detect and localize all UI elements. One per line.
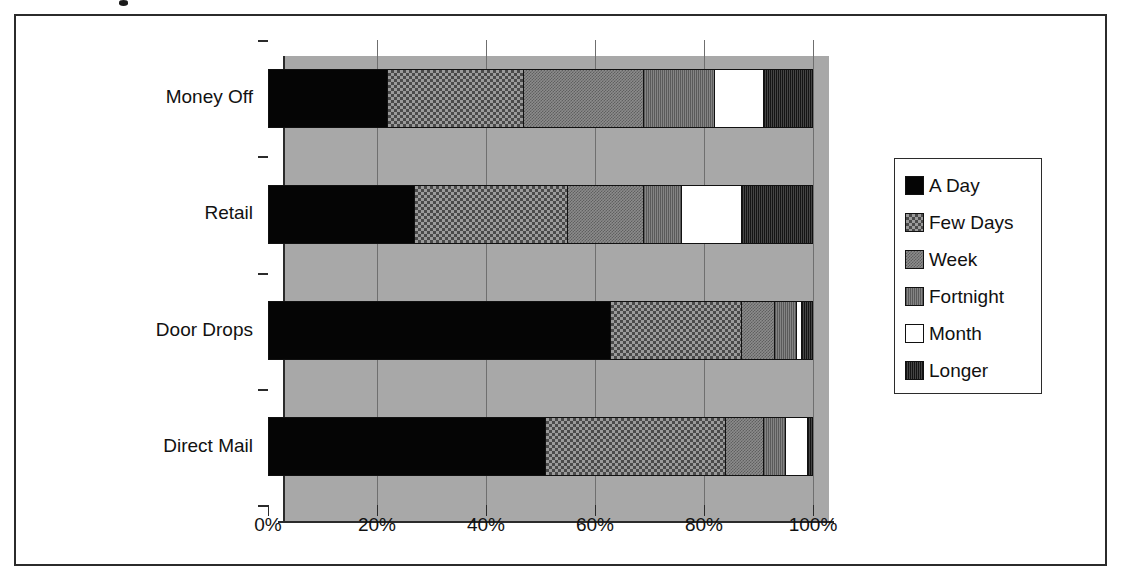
bar-segment: [775, 301, 797, 360]
legend-label: Month: [929, 323, 982, 345]
y-axis-tick: [258, 389, 268, 391]
legend-label: Longer: [929, 360, 988, 382]
legend-swatch-icon: [905, 213, 924, 232]
bar-segment: [764, 417, 786, 476]
category-label: Money Off: [23, 86, 253, 108]
category-label: Direct Mail: [23, 435, 253, 457]
x-tick-label: 20%: [358, 514, 396, 536]
bar-segment: [644, 69, 715, 128]
bar-segment: [742, 301, 775, 360]
y-axis-tick: [258, 156, 268, 158]
legend-label: Few Days: [929, 212, 1013, 234]
bar-segment: [546, 417, 726, 476]
x-tick-label: 80%: [685, 514, 723, 536]
legend-item: A Day: [905, 167, 1041, 204]
y-axis-tick: [258, 273, 268, 275]
stacked-bar: [268, 417, 813, 476]
legend-item: Month: [905, 315, 1041, 352]
bar-segment: [268, 69, 388, 128]
bar-segment: [644, 185, 682, 244]
legend-item: Week: [905, 241, 1041, 278]
bar-segment: [388, 69, 524, 128]
x-tick-label: 60%: [576, 514, 614, 536]
legend-swatch-icon: [905, 287, 924, 306]
category-label: Door Drops: [23, 319, 253, 341]
legend-item: Few Days: [905, 204, 1041, 241]
category-label: Retail: [23, 202, 253, 224]
bar-segment: [611, 301, 742, 360]
legend-label: Week: [929, 249, 977, 271]
bar-segment: [742, 185, 813, 244]
bar-segment: [682, 185, 742, 244]
legend-item: Fortnight: [905, 278, 1041, 315]
gridline: [813, 40, 814, 505]
chart-legend: A DayFew DaysWeekFortnightMonthLonger: [894, 158, 1042, 394]
legend-swatch-icon: [905, 250, 924, 269]
legend-swatch-icon: [905, 361, 924, 380]
bar-segment: [786, 417, 808, 476]
legend-swatch-icon: [905, 176, 924, 195]
y-axis-tick: [258, 40, 268, 42]
bar-segment: [524, 69, 644, 128]
bar-segment: [268, 185, 415, 244]
bar-segment: [802, 301, 813, 360]
bar-segment: [808, 417, 813, 476]
bar-segment: [268, 417, 546, 476]
x-tick-label: 40%: [467, 514, 505, 536]
stacked-bar: [268, 185, 813, 244]
stacked-bar: [268, 69, 813, 128]
legend-label: A Day: [929, 175, 980, 197]
bar-segment: [268, 301, 611, 360]
chart-figure-frame: Money OffRetailDoor DropsDirect Mail 0%2…: [14, 14, 1107, 566]
y-axis-tick: [258, 505, 268, 507]
bar-segment: [568, 185, 644, 244]
legend-swatch-icon: [905, 324, 924, 343]
bar-segment: [415, 185, 568, 244]
bar-segment: [764, 69, 813, 128]
bar-segment: [715, 69, 764, 128]
legend-label: Fortnight: [929, 286, 1004, 308]
x-tick-label: 100%: [789, 514, 838, 536]
x-tick-label: 0%: [254, 514, 281, 536]
legend-item: Longer: [905, 352, 1041, 389]
scan-artifact-speck: [119, 0, 128, 6]
bar-segment: [726, 417, 764, 476]
stacked-bar: [268, 301, 813, 360]
